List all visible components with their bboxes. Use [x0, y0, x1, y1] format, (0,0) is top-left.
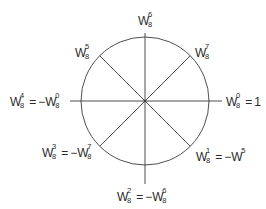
term-exponent: 0: [236, 92, 240, 100]
term-exponent: 6: [162, 187, 166, 195]
w8-5-term: W58: [75, 47, 92, 59]
term-exponent: 1: [206, 147, 210, 155]
w8-0-term: W08: [226, 96, 243, 108]
term-exponent: 5: [241, 147, 245, 155]
term-subscript: 8: [55, 102, 59, 110]
minus-sign: −: [38, 95, 45, 109]
minus-sign: −: [224, 150, 231, 164]
equals-sign: =: [213, 150, 224, 164]
label-w8-0: W08=1: [226, 96, 261, 108]
term-exponent: 4: [20, 92, 24, 100]
w8-6-term: W68: [138, 15, 155, 27]
term-subscript: 8: [52, 153, 56, 161]
equals-sign: =: [243, 95, 254, 109]
term-subscript: 8: [148, 21, 152, 29]
label-w8-4: W48=−W08: [10, 96, 63, 108]
w8-1-term: W18: [196, 151, 213, 163]
term-subscript: 8: [236, 102, 240, 110]
term-subscript: 8: [87, 153, 91, 161]
w8-7-term: W78: [195, 47, 212, 59]
equals-sign: =: [59, 146, 70, 160]
term-exponent: 7: [87, 143, 91, 151]
term-exponent: 0: [55, 92, 59, 100]
term-exponent: 3: [52, 143, 56, 151]
label-w8-7: W78: [195, 47, 212, 59]
label-w8-1: W18=−W5: [196, 151, 249, 163]
label-w8-2: W28=−W68: [117, 191, 170, 203]
value-one: 1: [254, 95, 261, 109]
w-5-term: W5: [231, 151, 248, 163]
minus-sign: −: [70, 146, 77, 160]
term-subscript: 8: [20, 102, 24, 110]
term-subscript: 8: [127, 197, 131, 205]
w8-2-term: W28: [117, 191, 134, 203]
w8-0-term: W08: [45, 96, 62, 108]
term-subscript: 8: [85, 53, 89, 61]
term-exponent: 5: [85, 43, 89, 51]
w8-6-term: W68: [152, 191, 169, 203]
twiddle-factor-diagram: W68 W58 W78 W48=−W08 W08=1 W38=−W78 W18=…: [0, 0, 266, 209]
term-exponent: 6: [148, 11, 152, 19]
term-exponent: 7: [205, 43, 209, 51]
w8-3-term: W38: [42, 147, 59, 159]
label-w8-6: W68: [138, 15, 155, 27]
term-subscript: 8: [162, 197, 166, 205]
equals-sign: =: [27, 95, 38, 109]
term-exponent: 2: [127, 187, 131, 195]
equals-sign: =: [134, 190, 145, 204]
term-subscript: 8: [205, 53, 209, 61]
term-subscript: 8: [206, 157, 210, 165]
origin-point: [144, 100, 147, 103]
label-w8-3: W38=−W78: [42, 147, 95, 159]
w8-7-term: W78: [77, 147, 94, 159]
minus-sign: −: [145, 190, 152, 204]
label-w8-5: W58: [75, 47, 92, 59]
w8-4-term: W48: [10, 96, 27, 108]
